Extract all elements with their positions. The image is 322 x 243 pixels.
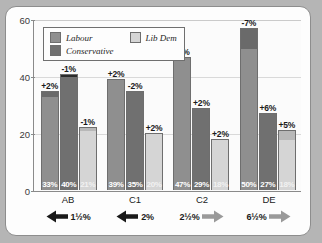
bar-body: 18% [279,140,295,190]
bar-de-lib-dem[interactable]: 18%+5% [278,130,296,189]
bar-c1-conservative[interactable]: 35%-2% [126,91,144,190]
bar-body: 39% [108,80,124,189]
bar-change-label: -1% [80,117,95,127]
category-label-ab: AB [35,194,102,205]
legend-swatch-libdem [130,32,141,43]
bar-change-label: -7% [242,18,257,28]
bar-body: 40% [61,77,77,189]
bar-body: 18% [212,140,228,190]
bar-value-label: 27% [260,180,276,189]
y-axis-tick-label: 0 [25,186,30,197]
category-label-c1: C1 [102,194,169,205]
bar-change-label: +2% [41,81,58,91]
bar-change-label: +2% [193,98,210,108]
category-label-de: DE [236,194,303,205]
bar-body: 33% [42,97,58,189]
bar-value-label: 39% [108,180,124,189]
bar-value-label: 47% [174,180,190,189]
bar-value-label: 21% [80,180,96,189]
bar-ab-labour[interactable]: 33%+2% [41,91,59,190]
chart-page: 0204060 33%+2%40%-1%21%-1%39%+2%35%-2%20… [0,0,322,243]
legend-label-libdem: Lib Dem [146,33,177,43]
legend-item-conservative: Conservative [50,45,114,56]
legend-label-labour: Labour [66,33,93,43]
bar-value-label: 50% [241,180,257,189]
bar-change-label: +2% [146,123,163,133]
legend-item-labour: Labour [50,32,114,43]
bar-de-conservative[interactable]: 27%+6% [259,113,277,189]
bar-c2-lib-dem[interactable]: 18%+2% [211,139,229,190]
bar-de-labour[interactable]: 50%-7% [240,28,258,189]
bar-body: 21% [80,131,96,189]
category-axis: ABC1C2DE [35,194,303,205]
bar-body: 20% [146,134,162,190]
bar-change-label: +5% [278,120,295,130]
bar-change-cap [241,29,257,49]
bar-change-cap [279,131,295,139]
bar-body: 27% [260,114,276,189]
arrow-left-icon [116,210,138,223]
bar-body: 29% [193,109,209,190]
bar-c1-lib-dem[interactable]: 20%+2% [145,133,163,190]
bar-body: 47% [174,58,190,190]
bar-body: 50% [241,49,257,189]
swing-label: 2% [141,212,154,222]
y-axis-tick-label: 60 [19,15,30,26]
y-axis-tick-mark [31,77,35,78]
y-axis-tick-label: 40 [19,72,30,83]
bar-change-label: -2% [128,81,143,91]
bar-group-de: 50%-7%27%+6%18%+5% [235,20,301,190]
bar-value-label: 35% [127,180,143,189]
arrow-right-icon [269,210,291,223]
bar-c2-conservative[interactable]: 29%+2% [192,108,210,190]
bar-change-label: +2% [212,129,229,139]
bar-change-label: +6% [259,103,276,113]
swing-ab: 1½% [35,210,102,223]
legend-item-libdem: Lib Dem [130,32,177,43]
bar-change-label: -1% [61,64,76,74]
category-label-c2: C2 [169,194,236,205]
bar-value-label: 18% [279,180,295,189]
arrow-left-icon [46,210,68,223]
legend-swatch-conservative [50,45,61,56]
bar-value-label: 18% [212,180,228,189]
y-axis-tick-mark [31,134,35,135]
chart-legend: Labour Lib Dem Conservative Lib Dem [43,27,185,61]
bar-value-label: 20% [146,180,162,189]
swing-label: 6½% [247,212,267,222]
bar-ab-conservative[interactable]: 40%-1% [60,74,78,190]
bar-ab-lib-dem[interactable]: 21%-1% [79,127,97,189]
bar-value-label: 33% [42,180,58,189]
swing-label: 2½% [180,212,200,222]
bar-c2-labour[interactable]: 47%-3% [173,57,191,190]
legend-swatch-labour [50,32,61,43]
bar-value-label: 40% [61,180,77,189]
swing-row: 1½%2%2½%6½% [35,210,303,223]
y-axis-tick-label: 20 [19,129,30,140]
arrow-right-icon [202,210,224,223]
swing-de: 6½% [236,210,303,223]
y-axis-tick-mark [31,20,35,21]
bar-body: 35% [127,92,143,190]
y-axis-tick-mark [31,191,35,192]
plot-area-wrapper: 0204060 33%+2%40%-1%21%-1%39%+2%35%-2%20… [33,20,301,192]
bar-change-label: +2% [108,69,125,79]
swing-label: 1½% [71,212,91,222]
bar-c1-labour[interactable]: 39%+2% [107,79,125,189]
bar-value-label: 29% [193,180,209,189]
swing-c2: 2½% [169,210,236,223]
chart-frame: 0204060 33%+2%40%-1%21%-1%39%+2%35%-2%20… [5,6,311,236]
swing-c1: 2% [102,210,169,223]
legend-label-conservative: Conservative [66,46,114,56]
